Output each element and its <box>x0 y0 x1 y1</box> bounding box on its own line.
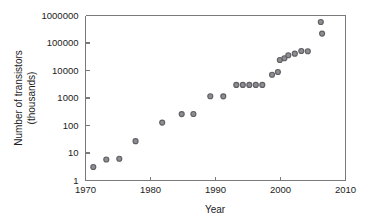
x-tick-label: 2000 <box>270 184 291 195</box>
data-point <box>221 94 226 99</box>
data-point <box>234 82 239 87</box>
data-point <box>247 82 252 87</box>
x-axis-label: Year <box>205 204 226 215</box>
data-point <box>320 31 325 36</box>
chart-canvas: 1101001000100001000001000000 19701980199… <box>0 0 366 220</box>
data-point <box>160 120 165 125</box>
data-point <box>299 49 304 54</box>
y-axis-label-line2: (thousands) <box>26 72 37 125</box>
data-point <box>240 82 245 87</box>
y-tick-label: 100000 <box>47 37 79 48</box>
transistor-count-chart: 1101001000100001000001000000 19701980199… <box>0 0 366 220</box>
data-point <box>104 157 109 162</box>
data-point <box>270 72 275 77</box>
data-point <box>117 156 122 161</box>
chart-background <box>0 0 366 220</box>
data-point <box>275 70 280 75</box>
y-tick-label: 10 <box>68 147 79 158</box>
y-tick-label: 100 <box>63 120 79 131</box>
x-tick-label: 1980 <box>140 184 161 195</box>
x-tick-label: 1990 <box>205 184 226 195</box>
data-point <box>286 53 291 58</box>
data-point <box>260 82 265 87</box>
data-point <box>191 112 196 117</box>
data-point <box>253 82 258 87</box>
data-point <box>208 94 213 99</box>
x-tick-label: 1970 <box>75 184 96 195</box>
data-point <box>292 51 297 56</box>
x-tick-label: 2010 <box>335 184 356 195</box>
y-axis-label-line1: Number of transistors <box>13 50 24 146</box>
data-point <box>305 49 310 54</box>
y-tick-label: 10000 <box>52 65 78 76</box>
data-point <box>133 139 138 144</box>
data-point <box>318 19 323 24</box>
data-point <box>179 112 184 117</box>
y-tick-label: 1000 <box>57 92 78 103</box>
y-tick-label: 1000000 <box>42 10 79 21</box>
data-point <box>91 164 96 169</box>
